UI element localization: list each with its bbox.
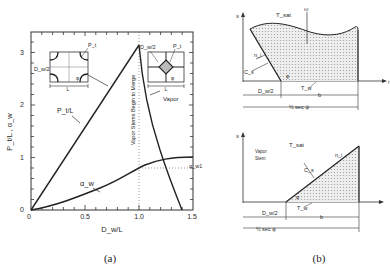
svg-text:Stem: Stem [255, 156, 266, 161]
panel-b-top-diagram: x r ω T_sat n_i C_s φ T_w D_w/2 b ½ sec … [236, 6, 390, 110]
label-pt: P_t/L [57, 107, 73, 115]
label-merge: Vapor Stems Begin to Merge [130, 75, 136, 145]
svg-text:Vapor: Vapor [255, 149, 267, 154]
panel-b-bottom-diagram: x T_sat Vapor Stem n_i C_s φ T_w D_w/2 b… [236, 132, 384, 265]
svg-text:D_w/2: D_w/2 [34, 66, 50, 72]
svg-text:D_w/2: D_w/2 [140, 44, 156, 50]
svg-text:T_w: T_w [301, 85, 311, 91]
svg-text:ω: ω [304, 6, 309, 12]
svg-text:b: b [318, 92, 321, 98]
svg-text:P_t: P_t [88, 42, 97, 48]
label-alpha-w1: α_w1 [189, 163, 202, 169]
svg-text:x: x [236, 13, 239, 19]
svg-text:T_sat: T_sat [289, 142, 304, 148]
alpha-curve [31, 157, 193, 210]
svg-text:½ sec φ: ½ sec φ [256, 226, 276, 232]
svg-text:D_w/2: D_w/2 [262, 210, 278, 216]
x-tick-05: 0.5 [80, 213, 90, 220]
x-axis-label: D_w/L [101, 225, 122, 234]
caption-b: (b) [313, 252, 326, 265]
svg-text:½ sec ψ: ½ sec ψ [289, 104, 309, 110]
svg-text:n_i: n_i [335, 152, 342, 158]
svg-text:x: x [236, 133, 239, 139]
svg-text:P_t: P_t [173, 43, 182, 49]
figure-canvas: 0 0.5 1.0 1.5 0 1 2 3 P_t/L , α_w D_w/L … [0, 0, 390, 270]
svg-text:D_w/2: D_w/2 [258, 88, 274, 94]
y-tick-1: 1 [20, 154, 24, 161]
y-tick-0: 0 [20, 206, 24, 213]
caption-a: (a) [104, 252, 117, 265]
svg-text:T_sat: T_sat [276, 12, 291, 18]
panel-a-chart: 0 0.5 1.0 1.5 0 1 2 3 P_t/L , α_w D_w/L … [5, 32, 202, 265]
svg-text:L: L [165, 86, 168, 92]
x-tick-0: 0 [27, 213, 31, 220]
x-tick-10: 1.0 [134, 213, 144, 220]
svg-text:C_s: C_s [244, 69, 254, 75]
y-axis-label: P_t/L , α_w [5, 113, 14, 151]
x-tick-15: 1.5 [187, 213, 197, 220]
svg-text:b: b [320, 214, 323, 220]
svg-text:L: L [67, 86, 70, 92]
y-tick-2: 2 [20, 101, 24, 108]
label-vapor: Vapor [163, 96, 179, 102]
inset-right-diagram: L D_w/2 P_t φ [140, 43, 184, 92]
label-alpha: α_w [80, 179, 95, 188]
y-tick-3: 3 [20, 49, 24, 56]
inset-left-diagram: L D_w/2 P_t φ [34, 42, 108, 92]
